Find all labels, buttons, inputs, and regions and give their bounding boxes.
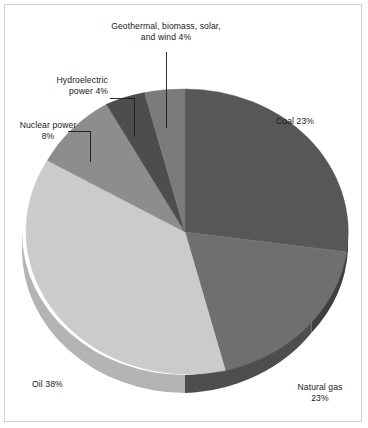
pie-chart-canvas bbox=[0, 0, 368, 428]
slice-label-geothermal: Geothermal, biomass, solar, and wind 4% bbox=[100, 21, 232, 43]
slice-label-nuclear-power: Nuclear power 8% bbox=[6, 120, 90, 142]
slice-label-coal: Coal 23% bbox=[276, 116, 356, 127]
slice-label-hydroelectric: Hydroelectric power 4% bbox=[28, 75, 108, 97]
pie-slice-coal[interactable] bbox=[185, 89, 348, 252]
pie-chart-figure: Geothermal, biomass, solar, and wind 4% … bbox=[0, 0, 368, 428]
slice-label-oil: Oil 38% bbox=[32, 379, 102, 390]
slice-label-natural-gas: Natural gas 23% bbox=[282, 382, 358, 404]
